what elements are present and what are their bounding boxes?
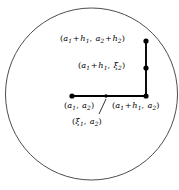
label-point-xi2: (a1+h1, ξ2) bbox=[78, 61, 125, 70]
label-point-xi1: (ξ1, a2) bbox=[72, 117, 102, 126]
figure-container: (a1+h1, a2+h2) (a1+h1, ξ2) (a1, a2) (a1+… bbox=[0, 0, 179, 190]
label-point-a1-plus-h1-a2: (a1+h1, a2) bbox=[112, 101, 160, 110]
point-ah-dot bbox=[143, 38, 148, 43]
diagram-canvas bbox=[0, 0, 179, 190]
xi1-leader-line bbox=[99, 99, 106, 114]
label-point-a: (a1, a2) bbox=[64, 101, 94, 110]
point-a1h1a2-dot bbox=[143, 93, 148, 98]
point-xi1-dot bbox=[104, 94, 107, 97]
point-a-dot bbox=[69, 93, 74, 98]
point-xi2-dot bbox=[143, 65, 148, 70]
label-point-a-plus-h: (a1+h1, a2+h2) bbox=[60, 34, 125, 43]
